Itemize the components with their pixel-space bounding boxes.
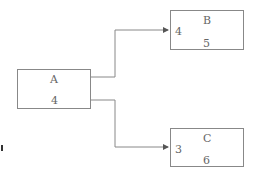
node-c-value: 6 [203,155,210,166]
node-b[interactable]: B 4 5 [170,10,244,50]
node-b-title: B [203,15,211,26]
node-b-value: 5 [203,38,210,49]
edge-a-to-c [90,100,168,147]
node-c-title: C [203,133,211,144]
node-c-in-port: 3 [175,144,182,155]
node-a-value: 4 [51,95,58,106]
node-c[interactable]: C 3 6 [170,128,244,167]
edge-artifact [1,145,3,151]
node-a-title: A [50,74,58,85]
node-a[interactable]: A 4 [17,69,91,109]
edge-a-to-b [90,30,168,77]
node-b-in-port: 4 [175,26,182,37]
